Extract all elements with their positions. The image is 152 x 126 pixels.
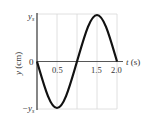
y-axis-label: y (cm) [13, 52, 23, 76]
x-tick-1-5: 1.5 [91, 65, 102, 75]
x-tick-0-5: 0.5 [52, 65, 63, 75]
x-axis-label: t (s) [126, 57, 140, 67]
y-min-label: −ys [22, 103, 35, 114]
y-max-label: ys [27, 11, 35, 22]
chart: ys 0 −ys 0.5 1.5 2.0 t (s) y (cm) [0, 0, 152, 126]
y-zero-label: 0 [29, 57, 34, 67]
x-tick-2-0: 2.0 [111, 65, 122, 75]
